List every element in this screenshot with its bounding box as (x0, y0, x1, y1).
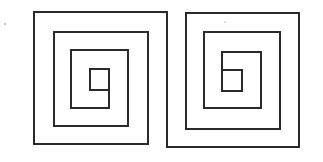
left-spiral-line (34, 12, 167, 147)
speck-mark (224, 21, 225, 22)
speck-mark (4, 23, 6, 25)
right-spiral-line (167, 13, 299, 147)
double-spiral-diagram (0, 0, 323, 162)
